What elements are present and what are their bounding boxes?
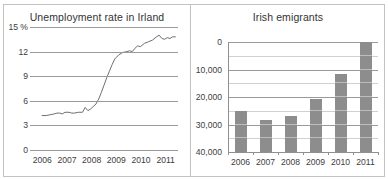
left-chart-gridline <box>30 125 178 126</box>
left-chart-x-tick-label: 2008 <box>79 155 104 165</box>
right-chart-gridline-minor <box>228 138 378 139</box>
bar-gridline-overlay <box>360 55 372 56</box>
right-chart-gridline <box>228 125 378 126</box>
emigrants-bar <box>285 116 297 152</box>
right-chart-x-tick <box>353 152 354 155</box>
left-chart-title: Unemployment rate in Irland <box>3 11 191 23</box>
bar-gridline-overlay <box>360 124 372 125</box>
bar-gridline-overlay <box>360 69 372 70</box>
right-chart-x-tick-label: 2008 <box>278 157 303 167</box>
right-chart-plot-area <box>228 42 378 152</box>
left-chart-y-tick-label: 3 <box>23 120 28 130</box>
right-chart-y-tick-label: 30,000 <box>196 120 222 130</box>
left-chart-y-tick-label: 12 <box>18 47 28 57</box>
unemployment-line-path <box>30 27 178 150</box>
right-chart-y-axis <box>228 42 229 152</box>
bar-gridline-overlay <box>360 137 372 138</box>
right-chart-x-tick-label: 2007 <box>253 157 278 167</box>
right-chart-x-tick <box>303 152 304 155</box>
left-chart-y-tick-label: 0 <box>23 145 28 155</box>
right-chart-y-tick-label: 20,000 <box>196 92 222 102</box>
left-chart-plot-area <box>30 27 178 150</box>
right-chart-gridline-minor <box>228 111 378 112</box>
bar-gridline-overlay <box>260 137 272 138</box>
right-chart-gridline <box>228 70 378 71</box>
left-chart-gridline <box>30 101 178 102</box>
bar-gridline-overlay <box>285 137 297 138</box>
right-chart-x-tick-label: 2006 <box>228 157 253 167</box>
left-chart-x-tick-label: 2006 <box>30 155 55 165</box>
right-chart-gridline-minor <box>228 56 378 57</box>
left-chart-x-tick-label: 2009 <box>104 155 129 165</box>
chart-pair-figure: Unemployment rate in Irland 15 %129630 2… <box>0 0 388 179</box>
right-chart-x-tick-label: 2010 <box>328 157 353 167</box>
right-chart-x-tick-label: 2011 <box>353 157 378 167</box>
bar-gridline-overlay <box>335 96 347 97</box>
left-chart-gridline <box>30 150 178 151</box>
emigrants-bar <box>360 42 372 152</box>
bar-gridline-overlay <box>335 82 347 83</box>
right-chart-gridline <box>228 42 378 43</box>
right-chart-x-tick <box>228 152 229 155</box>
bar-gridline-overlay <box>360 96 372 97</box>
emigrants-bar <box>235 111 247 152</box>
emigrants-bar <box>335 74 347 152</box>
bar-gridline-overlay <box>235 137 247 138</box>
right-chart-x-tick <box>328 152 329 155</box>
bar-gridline-overlay <box>310 110 322 111</box>
right-chart-gridline <box>228 97 378 98</box>
emigrants-bar <box>260 120 272 152</box>
bar-gridline-overlay <box>360 82 372 83</box>
right-chart-y-tick-label: 0 <box>217 37 222 47</box>
left-chart-y-tick-label: 9 <box>23 71 28 81</box>
bar-gridline-overlay <box>360 110 372 111</box>
left-chart-x-tick-label: 2007 <box>55 155 80 165</box>
left-chart-gridline <box>30 27 178 28</box>
bar-gridline-overlay <box>310 137 322 138</box>
left-chart-y-tick-label: 15 % <box>8 22 28 32</box>
left-chart-y-tick-label: 6 <box>23 96 28 106</box>
left-chart-x-tick-label: 2010 <box>129 155 154 165</box>
bar-gridline-overlay <box>285 124 297 125</box>
bar-gridline-overlay <box>235 124 247 125</box>
right-chart-title: Irish emigrants <box>191 11 385 23</box>
right-chart-y-tick-label: 40,000 <box>196 147 222 157</box>
right-chart-x-axis-labels: 200620072008200920102011 <box>228 156 380 170</box>
right-chart-x-tick <box>378 152 379 155</box>
emigrants-bar <box>310 99 322 152</box>
left-chart-gridline <box>30 52 178 53</box>
right-chart-x-tick <box>278 152 279 155</box>
right-chart-y-axis-labels: 40,00030,00020,00010,0000 <box>186 42 226 152</box>
left-chart-y-axis-labels: 15 %129630 <box>4 27 28 150</box>
bar-gridline-overlay <box>310 124 322 125</box>
bar-gridline-overlay <box>335 110 347 111</box>
right-chart-y-tick-label: 10,000 <box>196 65 222 75</box>
right-chart-x-tick <box>253 152 254 155</box>
bar-gridline-overlay <box>335 124 347 125</box>
bar-gridline-overlay <box>260 124 272 125</box>
left-chart-x-axis-labels: 200620072008200920102011 <box>30 155 180 169</box>
right-chart-gridline-minor <box>228 83 378 84</box>
bar-gridline-overlay <box>335 137 347 138</box>
left-chart-gridline <box>30 76 178 77</box>
left-chart-x-tick-label: 2011 <box>153 155 178 165</box>
right-chart-x-tick-label: 2009 <box>303 157 328 167</box>
